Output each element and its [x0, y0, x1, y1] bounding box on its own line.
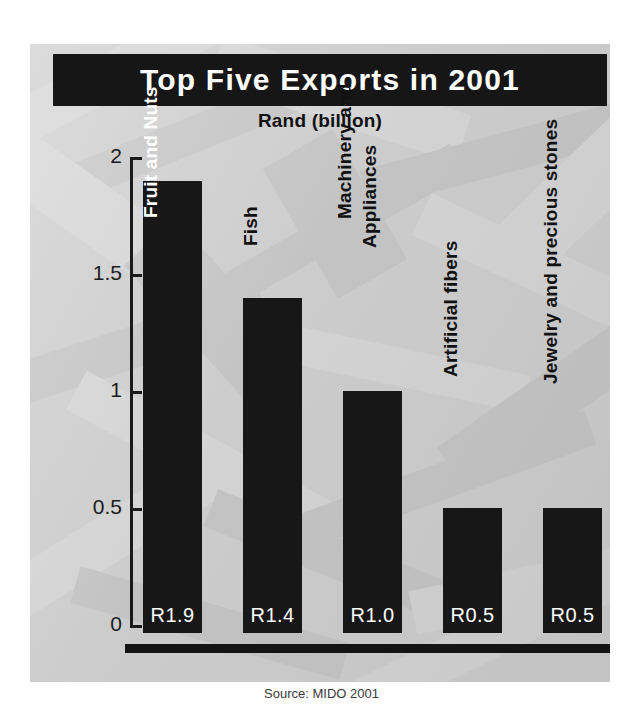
bar-value-label: R1.9: [143, 604, 202, 627]
bar-value-label: R0.5: [443, 604, 502, 627]
chart-panel: Top Five Exports in 2001 Rand (billion) …: [30, 44, 610, 682]
bar-category-label-fruit-and-nuts: Fruit and Nuts: [140, 86, 162, 218]
bar-value-label: R1.4: [243, 604, 302, 627]
bar-machinery-and-appliances[interactable]: R1.0: [343, 391, 402, 633]
bar-category-label-fish: Fish: [240, 206, 262, 246]
y-tick-1.5: [130, 274, 142, 277]
y-axis-label-0: 0: [66, 612, 122, 636]
y-tick-1: [130, 391, 142, 394]
y-tick-0.5: [130, 508, 142, 511]
bar-fruit-and-nuts[interactable]: R1.9: [143, 181, 202, 633]
bar-category-label-jewelry-and-precious-stones: Jewelry and precious stones: [540, 119, 562, 384]
bar-value-label: R0.5: [543, 604, 602, 627]
bar-fish[interactable]: R1.4: [243, 298, 302, 633]
y-axis-label-1_5: 1.5: [66, 261, 122, 285]
y-axis-label-2: 2: [66, 144, 122, 168]
source-note: Source: MIDO 2001: [0, 686, 643, 701]
chart-page: Top Five Exports in 2001 Rand (billion) …: [0, 0, 643, 724]
y-axis-label-0_5: 0.5: [66, 495, 122, 519]
x-axis-baseline: [125, 644, 610, 653]
y-axis-label-1: 1: [66, 378, 122, 402]
bar-category-label-machinery-line1: Machinery and: [334, 83, 356, 219]
bar-value-label: R1.0: [343, 604, 402, 627]
bar-category-label-artificial-fibers: Artificial fibers: [440, 241, 462, 377]
bar-jewelry-and-precious-stones[interactable]: R0.5: [543, 508, 602, 633]
plot-area: 2 1.5 1 0.5 0 R1.9 Fruit and Nuts R1.4 F…: [30, 44, 610, 682]
bar-artificial-fibers[interactable]: R0.5: [443, 508, 502, 633]
bar-category-label-machinery-line2: Appliances: [359, 145, 381, 248]
y-tick-0: [130, 625, 142, 628]
